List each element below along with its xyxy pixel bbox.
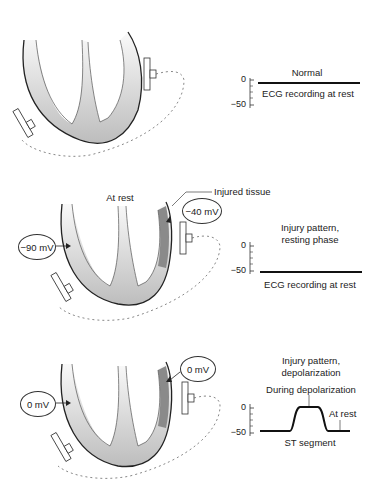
- potential-left-depolarization: 0 mV: [20, 391, 56, 417]
- tick-minus50-depol: −50: [226, 427, 246, 437]
- heart-normal: [23, 32, 142, 143]
- ecg-title-depol-2: depolarization: [281, 367, 340, 378]
- ecg-caption-resting: ECG recording at rest: [264, 279, 356, 290]
- electrode-right-depolarization: [182, 382, 194, 414]
- tick-minus50-normal: −50: [226, 99, 246, 109]
- ecg-caption-normal: ECG recording at rest: [262, 88, 354, 99]
- potential-right-depolarization: 0 mV: [180, 356, 216, 382]
- annotation-at-rest: At rest: [329, 408, 356, 419]
- annotation-during-depolarization: During depolarization: [266, 384, 356, 395]
- tick-minus50-resting: −50: [226, 265, 246, 275]
- electrode-left-resting: [51, 273, 73, 302]
- ecg-title-resting-1: Injury pattern,: [281, 222, 339, 233]
- tick-0-normal: 0: [226, 74, 246, 84]
- injured-tissue-label: Injured tissue: [214, 186, 271, 197]
- heart-resting: [61, 202, 172, 305]
- potential-right-resting: −40 mV: [182, 198, 222, 224]
- heart-label-at-rest: At rest: [106, 192, 133, 203]
- potential-left-resting: −90 mV: [18, 234, 56, 260]
- ecg-title-resting-2: resting phase: [281, 234, 338, 245]
- electrode-left-depolarization: [51, 433, 73, 462]
- electrode-right-resting: [180, 222, 192, 254]
- ecg-resting: [250, 242, 362, 274]
- tick-0-resting: 0: [226, 240, 246, 250]
- ecg-title-depol-1: Injury pattern,: [282, 355, 340, 366]
- heart-depolarization: [61, 362, 172, 467]
- tick-0-depol: 0: [226, 402, 246, 412]
- ecg-title-normal: Normal: [292, 67, 323, 78]
- electrode-left-normal: [13, 109, 35, 138]
- ecg-caption-st-segment: ST segment: [284, 437, 335, 448]
- electrode-right-normal: [144, 58, 156, 90]
